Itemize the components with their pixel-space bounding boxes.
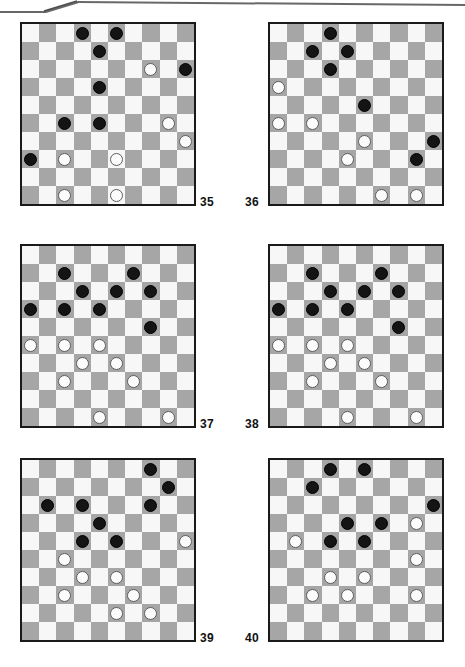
square-r8c6[interactable] (125, 604, 142, 622)
black-piece[interactable] (58, 267, 71, 280)
square-r8c7[interactable] (142, 604, 159, 622)
square-r6c0[interactable] (270, 132, 287, 150)
square-r2c4[interactable] (91, 282, 108, 300)
square-r0c9[interactable] (177, 24, 194, 42)
square-r1c8[interactable] (408, 264, 425, 282)
square-r8c5[interactable] (356, 168, 373, 186)
square-r3c5[interactable] (108, 300, 125, 318)
square-r6c1[interactable] (39, 354, 56, 372)
square-r7c6[interactable] (125, 150, 142, 168)
square-r3c8[interactable] (408, 300, 425, 318)
square-r4c6[interactable] (373, 532, 390, 550)
black-piece[interactable] (76, 499, 89, 512)
square-r0c0[interactable] (270, 24, 287, 42)
square-r8c0[interactable] (270, 604, 287, 622)
black-piece[interactable] (358, 99, 371, 112)
square-r4c3[interactable] (74, 318, 91, 336)
square-r5c2[interactable] (304, 114, 321, 132)
square-r7c0[interactable] (270, 372, 287, 390)
square-r5c8[interactable] (160, 550, 177, 568)
square-r6c7[interactable] (142, 568, 159, 586)
black-piece[interactable] (144, 285, 157, 298)
square-r7c6[interactable] (125, 372, 142, 390)
square-r6c8[interactable] (160, 354, 177, 372)
square-r0c5[interactable] (108, 24, 125, 42)
square-r7c7[interactable] (142, 150, 159, 168)
square-r0c1[interactable] (287, 246, 304, 264)
white-piece[interactable] (24, 339, 37, 352)
square-r5c0[interactable] (22, 550, 39, 568)
white-piece[interactable] (93, 411, 106, 424)
square-r6c7[interactable] (390, 132, 407, 150)
square-r7c9[interactable] (177, 586, 194, 604)
white-piece[interactable] (162, 117, 175, 130)
square-r2c2[interactable] (56, 496, 73, 514)
square-r1c1[interactable] (39, 42, 56, 60)
white-piece[interactable] (58, 375, 71, 388)
square-r1c4[interactable] (339, 478, 356, 496)
white-piece[interactable] (58, 339, 71, 352)
square-r0c8[interactable] (160, 246, 177, 264)
square-r2c7[interactable] (142, 60, 159, 78)
white-piece[interactable] (144, 63, 157, 76)
square-r5c2[interactable] (304, 550, 321, 568)
square-r6c2[interactable] (304, 354, 321, 372)
square-r4c2[interactable] (56, 318, 73, 336)
white-piece[interactable] (127, 375, 140, 388)
square-r8c7[interactable] (390, 604, 407, 622)
square-r7c0[interactable] (22, 372, 39, 390)
square-r5c1[interactable] (39, 336, 56, 354)
square-r0c6[interactable] (373, 460, 390, 478)
black-piece[interactable] (58, 117, 71, 130)
square-r7c3[interactable] (74, 372, 91, 390)
square-r2c3[interactable] (74, 60, 91, 78)
square-r3c7[interactable] (142, 514, 159, 532)
square-r9c0[interactable] (270, 408, 287, 426)
square-r2c8[interactable] (160, 496, 177, 514)
square-r9c6[interactable] (373, 186, 390, 204)
square-r2c9[interactable] (177, 282, 194, 300)
square-r3c1[interactable] (287, 78, 304, 96)
square-r3c4[interactable] (91, 514, 108, 532)
square-r2c2[interactable] (56, 60, 73, 78)
square-r1c2[interactable] (56, 264, 73, 282)
square-r5c3[interactable] (322, 550, 339, 568)
square-r3c4[interactable] (339, 300, 356, 318)
square-r2c5[interactable] (108, 282, 125, 300)
square-r9c6[interactable] (373, 408, 390, 426)
square-r7c9[interactable] (177, 372, 194, 390)
square-r6c2[interactable] (304, 132, 321, 150)
square-r5c9[interactable] (425, 114, 442, 132)
square-r1c5[interactable] (356, 42, 373, 60)
square-r5c6[interactable] (125, 550, 142, 568)
black-piece[interactable] (324, 535, 337, 548)
square-r0c2[interactable] (304, 460, 321, 478)
square-r8c7[interactable] (142, 390, 159, 408)
square-r5c5[interactable] (108, 550, 125, 568)
square-r8c9[interactable] (425, 604, 442, 622)
square-r3c1[interactable] (39, 514, 56, 532)
white-piece[interactable] (324, 571, 337, 584)
square-r1c0[interactable] (22, 478, 39, 496)
square-r7c4[interactable] (339, 372, 356, 390)
square-r0c2[interactable] (56, 460, 73, 478)
square-r7c2[interactable] (304, 586, 321, 604)
square-r1c5[interactable] (356, 478, 373, 496)
square-r8c8[interactable] (408, 168, 425, 186)
square-r8c7[interactable] (142, 168, 159, 186)
square-r7c6[interactable] (373, 586, 390, 604)
square-r7c8[interactable] (160, 150, 177, 168)
square-r3c8[interactable] (408, 78, 425, 96)
square-r4c0[interactable] (22, 318, 39, 336)
square-r4c0[interactable] (270, 532, 287, 550)
square-r8c2[interactable] (56, 390, 73, 408)
square-r0c3[interactable] (322, 24, 339, 42)
square-r6c8[interactable] (160, 132, 177, 150)
square-r7c6[interactable] (125, 586, 142, 604)
square-r0c0[interactable] (270, 460, 287, 478)
square-r4c8[interactable] (160, 318, 177, 336)
square-r3c0[interactable] (270, 78, 287, 96)
square-r0c6[interactable] (125, 24, 142, 42)
square-r5c5[interactable] (108, 114, 125, 132)
square-r5c0[interactable] (270, 336, 287, 354)
